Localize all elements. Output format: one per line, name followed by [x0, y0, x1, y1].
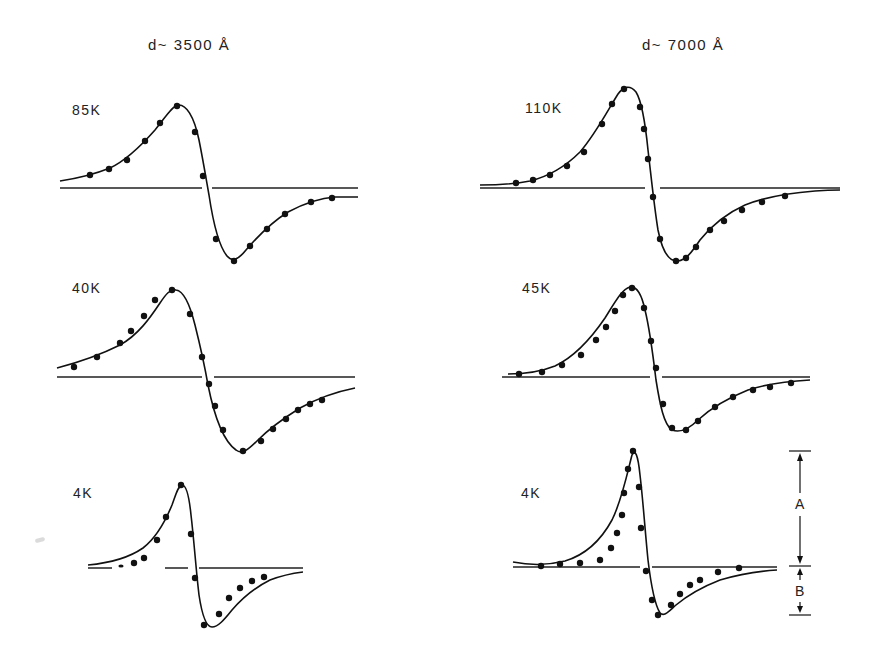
panel-85k — [60, 103, 358, 264]
fit-curve — [88, 485, 303, 627]
figure: d~ 3500 Å d~ 7000 Å 85K 110K 40K 45K 4K … — [0, 0, 875, 664]
fit-curve — [60, 105, 358, 259]
panel-4k-right — [513, 448, 811, 618]
data-points — [87, 103, 335, 264]
arrow-up-icon — [797, 568, 803, 575]
arrow-up-icon — [797, 453, 803, 461]
panel-45k — [502, 285, 810, 433]
data-points — [71, 287, 325, 454]
fit-curve — [513, 452, 777, 614]
panel-40k — [57, 287, 355, 454]
arrow-down-icon — [797, 606, 803, 613]
panel-4k-left — [88, 482, 303, 628]
panel-110k — [480, 86, 840, 264]
annotation-label-b: B — [795, 583, 804, 599]
data-points — [516, 285, 794, 433]
fit-curve — [480, 87, 840, 261]
annotation-label-a: A — [795, 496, 804, 512]
data-points — [118, 482, 267, 628]
fit-curve — [508, 287, 810, 431]
plot-canvas — [0, 0, 875, 664]
arrow-down-icon — [797, 556, 803, 564]
fit-curve — [57, 290, 355, 452]
